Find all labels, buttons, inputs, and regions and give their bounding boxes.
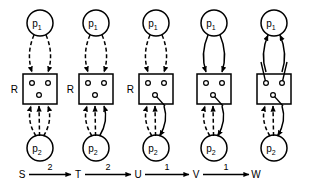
edge-p1-to-resource [29, 35, 34, 72]
edge-p2-to-resource [30, 106, 36, 136]
resource-slot-top-right [102, 81, 107, 86]
resource-slot-bottom [37, 93, 42, 98]
resource-label: R [11, 84, 18, 95]
edge-p2-to-resource [264, 106, 270, 136]
resource-slot-top-left [204, 81, 209, 86]
edge-p2-to-resource [95, 106, 96, 136]
state-column-T: p1p2R [67, 10, 113, 161]
state-transition-diagram: p1p2Rp1p2Rp1p2Rp1p2p1p2 STUVW2211 [0, 0, 316, 193]
resource-slot-bottom [93, 93, 98, 98]
process-node-p1 [261, 10, 287, 36]
edge-p1-to-resource [145, 35, 150, 72]
edge-p2-to-resource [39, 106, 40, 136]
edge-p2-to-resource [146, 106, 152, 136]
resource-slot-top-left [264, 81, 269, 86]
state-label-S: S [19, 169, 26, 180]
process-node-p2 [201, 135, 227, 161]
state-column-W: p1p2 [257, 10, 291, 161]
state-label-W: W [251, 169, 261, 180]
edge-p2-to-resource [86, 106, 92, 136]
process-node-p1 [201, 10, 227, 36]
resource-label: R [67, 84, 74, 95]
edge-p2-to-resource [273, 106, 274, 136]
resource-slot-top-left [30, 81, 35, 86]
timeline-axis: STUVW2211 [19, 162, 262, 180]
process-node-p2 [143, 135, 169, 161]
process-node-p1 [27, 10, 53, 36]
state-column-U: p1p2R [127, 10, 173, 161]
edge-p1-to-resource [85, 35, 90, 72]
process-node-p1 [143, 10, 169, 36]
resource-slot-top-left [146, 81, 151, 86]
edge-p1-to-resource [102, 35, 107, 72]
edge-resource-to-p2 [278, 106, 284, 136]
state-column-S: p1p2R [11, 10, 57, 161]
edge-p2-to-resource [204, 106, 210, 136]
resource-slot-top-right [162, 81, 167, 86]
resource-box [79, 74, 113, 104]
process-node-p2 [83, 135, 109, 161]
edge-resource-to-p1 [263, 35, 268, 72]
edge-p2-to-resource [100, 106, 106, 136]
process-node-p2 [261, 135, 287, 161]
state-label-U: U [134, 169, 141, 180]
state-column-V: p1p2 [197, 10, 231, 161]
transition-label-U-V: 1 [164, 162, 169, 172]
resource-box [23, 74, 57, 104]
resource-label: R [127, 84, 134, 95]
edge-p2-to-resource [44, 106, 50, 136]
edge-resource-to-p2 [160, 106, 166, 136]
edge-p1-to-resource [162, 35, 167, 72]
transition-label-T-U: 2 [105, 162, 110, 172]
resource-slot-top-left [86, 81, 91, 86]
edge-p2-to-resource [155, 106, 156, 136]
resource-slot-top-right [280, 81, 285, 86]
transition-label-S-T: 2 [47, 162, 52, 172]
process-node-p2 [27, 135, 53, 161]
edge-resource-to-p1 [280, 35, 285, 72]
state-label-T: T [75, 169, 81, 180]
resource-slot-top-right [220, 81, 225, 86]
edge-p1-to-resource [46, 35, 51, 72]
edge-p2-to-resource [213, 106, 214, 136]
resource-box [197, 74, 231, 104]
state-label-V: V [193, 169, 200, 180]
resource-slot-top-right [46, 81, 51, 86]
process-node-p1 [83, 10, 109, 36]
transition-label-V-W: 1 [223, 162, 228, 172]
edge-resource-to-p2 [218, 106, 224, 136]
resource-box [139, 74, 173, 104]
diagram-body: p1p2Rp1p2Rp1p2Rp1p2p1p2 [11, 10, 291, 161]
edge-p1-to-resource [220, 35, 225, 72]
edge-p1-to-resource [203, 35, 208, 72]
resource-box [257, 74, 291, 104]
